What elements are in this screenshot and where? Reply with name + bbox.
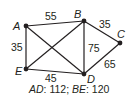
note-be-value: : 120 (86, 83, 110, 95)
weight-label-b-d: 75 (88, 42, 100, 54)
vertex-b (82, 19, 87, 24)
diagonal-lengths-note: AD: 112; BE: 120 (28, 83, 110, 95)
vertex-label-c: C (117, 28, 125, 40)
vertex-label-e: E (15, 65, 23, 77)
vertex-d (82, 72, 87, 77)
vertex-label-b: B (74, 8, 81, 20)
vertex-c (118, 41, 123, 46)
vertex-a (24, 24, 29, 29)
edge-weight-labels: 55 35 35 75 65 45 (11, 10, 116, 84)
weight-label-a-b: 55 (45, 10, 57, 22)
weighted-graph: A B C D E 55 35 35 75 65 45 AD: 112; BE:… (0, 0, 132, 101)
vertex-e (24, 67, 29, 72)
edge-b-e (26, 21, 84, 69)
weight-label-a-e: 35 (11, 41, 23, 53)
note-ad-value: : 112; (44, 83, 72, 95)
note-be-label: BE (72, 83, 87, 95)
note-ad-label: AD (28, 83, 44, 95)
weight-label-c-d: 65 (104, 58, 116, 70)
vertex-label-a: A (12, 20, 20, 32)
edge-a-d (26, 26, 84, 74)
weight-label-b-c: 35 (99, 18, 111, 30)
